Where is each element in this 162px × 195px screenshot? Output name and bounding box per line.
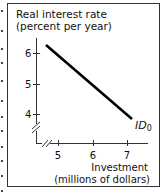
investment-demand-chart: Real interest rate (percent per year) 6 … [0, 0, 162, 195]
y-axis-label-line1: Real interest rate [16, 8, 107, 20]
y-tick-label: 4 [25, 109, 31, 120]
investment-demand-curve [46, 45, 132, 119]
x-tick-label: 6 [90, 150, 96, 161]
y-axis-label-line2: (percent per year) [16, 20, 112, 32]
y-tick-label: 6 [25, 48, 31, 59]
y-tick-label: 5 [25, 79, 31, 90]
x-axis-label-line1: Investment [91, 162, 148, 173]
x-tick-label: 7 [124, 150, 130, 161]
curve-label: ID0 [135, 119, 152, 133]
x-tick-label: 5 [55, 150, 61, 161]
x-axis-label-line2: (millions of dollars) [54, 174, 150, 185]
